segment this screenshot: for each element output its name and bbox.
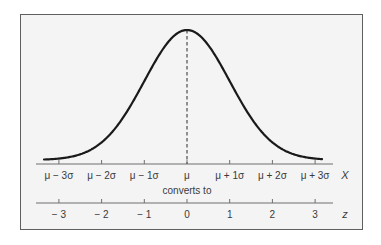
tick-label: 1 — [227, 209, 233, 220]
tick-label: 3 — [312, 209, 318, 220]
x-axis-variable-label: X — [340, 169, 349, 181]
tick-label: μ − 3σ — [44, 170, 74, 181]
converts-to-label: converts to — [163, 185, 212, 196]
z-axis-tick-labels: − 3− 2− 10123 — [52, 209, 319, 220]
tick-label: μ + 2σ — [258, 170, 288, 181]
tick-label: 0 — [184, 209, 190, 220]
x-axis-tick-labels: μ − 3σμ − 2σμ − 1σμμ + 1σμ + 2σμ + 3σ — [44, 170, 330, 181]
tick-label: μ − 1σ — [130, 170, 160, 181]
normal-curve — [44, 30, 322, 160]
tick-label: − 3 — [52, 209, 67, 220]
tick-label: μ − 2σ — [87, 170, 117, 181]
tick-label: − 1 — [137, 209, 152, 220]
tick-label: μ — [184, 170, 190, 181]
tick-label: − 2 — [95, 209, 110, 220]
z-axis-variable-label: z — [341, 208, 348, 220]
tick-label: μ + 3σ — [301, 170, 331, 181]
normal-distribution-figure: μ − 3σμ − 2σμ − 1σμμ + 1σμ + 2σμ + 3σ X … — [0, 0, 381, 245]
tick-label: μ + 1σ — [215, 170, 245, 181]
tick-label: 2 — [270, 209, 276, 220]
